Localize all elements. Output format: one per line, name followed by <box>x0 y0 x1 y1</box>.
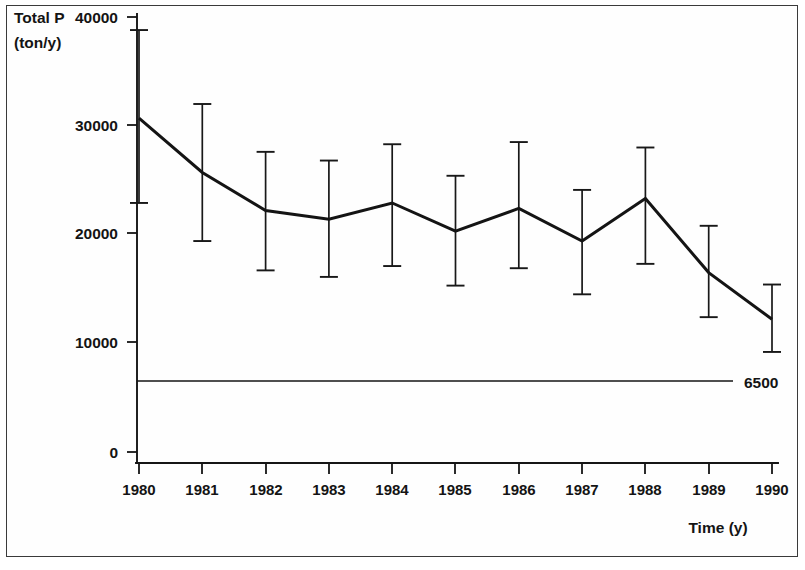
chart-canvas: 40000 30000 20000 10000 0 Total P (ton/y… <box>0 0 805 570</box>
y-tick-label-20000: 20000 <box>75 225 118 242</box>
y-tick-label-30000: 30000 <box>75 117 118 134</box>
y-tick-labels: 40000 30000 20000 10000 0 <box>75 9 118 461</box>
y-tick-label-0: 0 <box>109 444 118 461</box>
x-tick-label-1984: 1984 <box>375 481 409 498</box>
error-bar-group <box>130 30 781 352</box>
y-axis-title-line1: Total P <box>14 9 65 26</box>
axis-group <box>136 14 778 463</box>
x-tick-label-1981: 1981 <box>185 481 218 498</box>
y-tick-label-10000: 10000 <box>75 334 118 351</box>
x-tick-label-1983: 1983 <box>312 481 345 498</box>
x-tick-label-1985: 1985 <box>438 481 471 498</box>
x-axis-title: Time (y) <box>688 519 747 536</box>
x-tick-marks <box>139 463 772 474</box>
figure-root: 40000 30000 20000 10000 0 Total P (ton/y… <box>0 0 805 570</box>
reference-line-6500: 6500 <box>137 374 778 391</box>
y-axis-title-line2: (ton/y) <box>14 34 61 51</box>
y-tick-marks <box>127 17 137 452</box>
x-tick-label-1989: 1989 <box>692 481 725 498</box>
x-tick-label-1982: 1982 <box>249 481 282 498</box>
x-tick-labels: 1980 1981 1982 1983 1984 1985 1986 1987 … <box>122 481 788 498</box>
x-tick-label-1987: 1987 <box>565 481 598 498</box>
y-tick-label-40000: 40000 <box>75 9 118 26</box>
x-tick-label-1986: 1986 <box>502 481 535 498</box>
y-axis-title: Total P (ton/y) <box>14 9 65 51</box>
x-tick-label-1990: 1990 <box>755 481 788 498</box>
reference-line-label: 6500 <box>744 374 778 391</box>
x-tick-label-1988: 1988 <box>628 481 661 498</box>
x-tick-label-1980: 1980 <box>122 481 155 498</box>
